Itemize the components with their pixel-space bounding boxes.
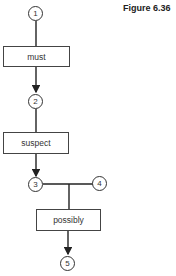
node-2: 2 — [28, 94, 43, 109]
box-possibly: possibly — [36, 209, 101, 231]
box-must: must — [3, 46, 70, 67]
box-suspect: suspect — [3, 132, 69, 154]
node-4: 4 — [92, 176, 107, 191]
figure-title: Figure 6.36 — [123, 3, 171, 13]
node-3: 3 — [28, 177, 43, 192]
node-5: 5 — [60, 256, 75, 271]
node-1: 1 — [28, 6, 43, 21]
